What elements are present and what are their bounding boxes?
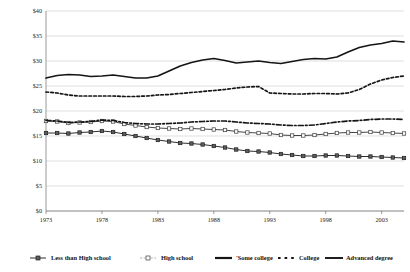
data-point-marker <box>369 130 372 133</box>
data-point-marker <box>402 156 405 159</box>
line-chart: $0$5$10$15$20$25$30$35$40197319781983198… <box>0 0 410 272</box>
data-point-marker <box>78 131 81 134</box>
data-point-marker <box>156 126 159 129</box>
x-axis-tick-label: 1988 <box>208 216 220 223</box>
legend-label: High school <box>161 254 193 261</box>
data-point-marker <box>179 141 182 144</box>
data-point-marker <box>44 131 47 134</box>
chart-container: $0$5$10$15$20$25$30$35$40197319781983198… <box>0 0 410 272</box>
data-point-marker <box>201 127 204 130</box>
data-point-marker <box>145 125 148 128</box>
y-axis-tick-label: $35 <box>33 32 42 39</box>
data-point-marker <box>123 132 126 135</box>
data-point-marker <box>111 130 114 133</box>
data-point-marker <box>290 134 293 137</box>
data-point-marker <box>268 151 271 154</box>
data-point-marker <box>335 131 338 134</box>
legend-item-some-college[interactable]: 'Some college <box>215 254 273 261</box>
x-axis-tick-label: 1973 <box>40 216 52 223</box>
series-line-advanced-degree <box>46 41 404 78</box>
data-point-marker <box>212 144 215 147</box>
data-point-marker <box>279 152 282 155</box>
x-axis-tick-label: 1983 <box>152 216 164 223</box>
data-point-marker <box>335 154 338 157</box>
y-axis-tick-label: $30 <box>33 57 42 64</box>
y-axis-tick-label: $20 <box>33 107 42 114</box>
data-point-marker <box>369 155 372 158</box>
data-point-marker <box>391 156 394 159</box>
data-point-marker <box>89 130 92 133</box>
data-point-marker <box>234 130 237 133</box>
data-point-marker <box>190 127 193 130</box>
data-point-marker <box>358 131 361 134</box>
data-point-marker <box>290 153 293 156</box>
data-point-marker <box>100 129 103 132</box>
data-point-marker <box>302 134 305 137</box>
legend-label: Less than High school <box>51 254 111 261</box>
legend-label: Advanced degree <box>346 254 393 261</box>
data-point-marker <box>156 138 159 141</box>
data-point-marker <box>324 132 327 135</box>
data-point-marker <box>391 131 394 134</box>
y-axis-tick-label: $40 <box>33 7 42 14</box>
x-axis-tick-label: 1993 <box>264 216 276 223</box>
y-axis-tick-label: $10 <box>33 157 42 164</box>
legend-open-square-marker <box>146 256 150 260</box>
data-point-marker <box>380 131 383 134</box>
data-point-marker <box>167 127 170 130</box>
data-point-marker <box>246 149 249 152</box>
data-point-marker <box>279 133 282 136</box>
series-line-less-than-high-school <box>46 131 404 158</box>
data-point-marker <box>145 136 148 139</box>
y-axis-tick-label: $0 <box>36 207 42 214</box>
legend-item-college[interactable]: College <box>278 254 319 261</box>
data-point-marker <box>246 131 249 134</box>
x-axis-tick-label: 1978 <box>96 216 108 223</box>
data-point-marker <box>346 131 349 134</box>
data-point-marker <box>346 154 349 157</box>
data-point-marker <box>223 128 226 131</box>
data-point-marker <box>257 131 260 134</box>
data-point-marker <box>212 128 215 131</box>
legend-label: College <box>299 254 319 261</box>
data-point-marker <box>268 132 271 135</box>
legend-item-less-than-high-school[interactable]: Less than High school <box>30 254 111 261</box>
data-point-marker <box>223 146 226 149</box>
data-point-marker <box>167 140 170 143</box>
data-point-marker <box>179 127 182 130</box>
data-point-marker <box>380 155 383 158</box>
data-point-marker <box>358 155 361 158</box>
data-point-marker <box>190 142 193 145</box>
legend-item-high-school[interactable]: High school <box>140 254 193 261</box>
data-point-marker <box>302 154 305 157</box>
x-axis-tick-label: 2003 <box>375 216 387 223</box>
y-axis-tick-label: $25 <box>33 82 42 89</box>
data-point-marker <box>324 154 327 157</box>
legend-square-marker <box>36 256 40 260</box>
series-line-some-college <box>46 119 404 126</box>
data-point-marker <box>67 132 70 135</box>
y-axis-tick-label: $5 <box>36 182 42 189</box>
data-point-marker <box>313 133 316 136</box>
data-point-marker <box>402 132 405 135</box>
y-axis-tick-label: $15 <box>33 132 42 139</box>
data-point-marker <box>201 143 204 146</box>
data-point-marker <box>234 148 237 151</box>
legend-item-advanced-degree[interactable]: Advanced degree <box>325 254 393 261</box>
legend-label: 'Some college <box>236 254 273 261</box>
data-point-marker <box>134 134 137 137</box>
data-point-marker <box>55 131 58 134</box>
data-point-marker <box>313 154 316 157</box>
x-axis-tick-label: 1998 <box>320 216 332 223</box>
data-point-marker <box>257 150 260 153</box>
